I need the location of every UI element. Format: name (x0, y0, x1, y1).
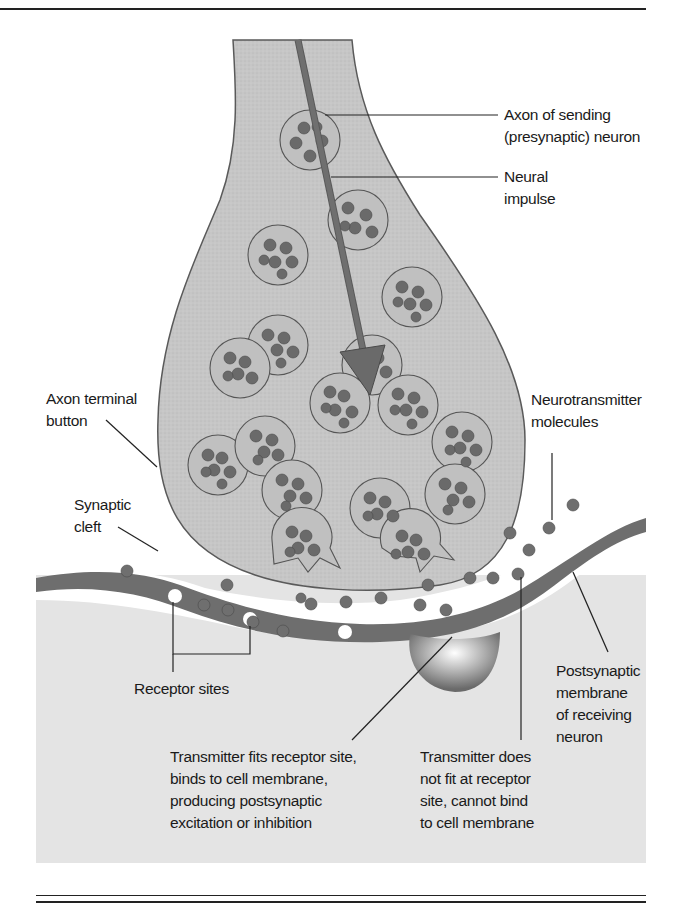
receptor-label: Receptor sites (134, 680, 229, 697)
bottom-rule-thick (36, 901, 646, 903)
terminal-label: Axon terminal button (46, 390, 141, 429)
bottom-rule-thin (36, 895, 646, 896)
impulse-label: Neural impulse (504, 168, 555, 207)
receptor-site (338, 625, 352, 639)
cleft-leader (118, 527, 158, 551)
neurotransmitter-label: Neurotransmitter molecules (531, 391, 646, 430)
cleft-label: Synaptic cleft (74, 496, 135, 535)
axon-label: Axon of sending (presynaptic) neuron (504, 106, 640, 145)
synapse-diagram: Axon of sending (presynaptic) neuron Neu… (0, 0, 681, 904)
terminal-leader (106, 420, 157, 467)
receptor-site (168, 589, 182, 603)
